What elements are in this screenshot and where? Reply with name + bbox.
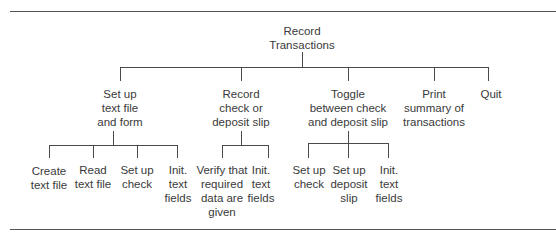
- node-label-line: Verify that: [196, 163, 247, 177]
- node-label-line: Transactions: [269, 38, 334, 52]
- node-label-line: Record: [212, 87, 270, 101]
- node-label-line: Print: [403, 87, 465, 101]
- connector-line: [93, 145, 94, 158]
- node-label-line: and deposit slip: [308, 115, 388, 129]
- node-label-line: and form: [97, 115, 142, 129]
- node-label-line: check: [120, 177, 153, 191]
- node-toggle-check-deposit: Toggle between check and deposit slip: [308, 87, 388, 129]
- node-label-line: given: [196, 205, 247, 219]
- node-label-line: Set up: [97, 87, 142, 101]
- connector-line: [268, 145, 269, 158]
- node-label-line: Record: [269, 24, 334, 38]
- node-label-line: Init.: [165, 163, 192, 177]
- node-set-up-deposit-slip: Set up deposit slip: [330, 163, 367, 205]
- connector-line: [308, 143, 309, 158]
- connector-line: [348, 143, 349, 158]
- connector-line: [49, 145, 178, 146]
- node-set-up-check: Set up check: [292, 163, 325, 191]
- node-label-line: Set up: [120, 163, 153, 177]
- node-label-line: data are: [196, 191, 247, 205]
- node-label-line: Toggle: [308, 87, 388, 101]
- node-set-up-check: Set up check: [120, 163, 153, 191]
- node-label-line: text file: [31, 178, 67, 192]
- node-init-text-fields: Init. text fields: [376, 163, 403, 205]
- node-init-text-fields: Init. text fields: [165, 163, 192, 205]
- node-label-line: text: [376, 177, 403, 191]
- node-label-line: Create: [31, 164, 67, 178]
- node-record-check-or-deposit-slip: Record check or deposit slip: [212, 87, 270, 129]
- node-label-line: text file: [97, 101, 142, 115]
- top-rule: [10, 11, 556, 12]
- node-label-line: Quit: [480, 87, 501, 101]
- node-label-line: fields: [248, 191, 275, 205]
- connector-line: [222, 145, 269, 146]
- node-label-line: deposit: [330, 177, 367, 191]
- node-label-line: text: [248, 177, 275, 191]
- connector-line: [137, 145, 138, 158]
- connector-line: [120, 67, 121, 81]
- connector-line: [388, 143, 389, 158]
- connector-line: [222, 145, 223, 158]
- node-read-text-file: Read text file: [75, 163, 111, 191]
- node-label-line: text: [165, 177, 192, 191]
- node-label-line: slip: [330, 191, 367, 205]
- node-create-text-file: Create text file: [31, 164, 67, 192]
- node-label-line: Init.: [376, 163, 403, 177]
- connector-line: [241, 67, 242, 81]
- node-set-up-text-file-and-form: Set up text file and form: [97, 87, 142, 129]
- node-label-line: Init.: [248, 163, 275, 177]
- node-verify-required-data: Verify that required data are given: [196, 163, 247, 219]
- connector-line: [177, 145, 178, 158]
- node-label-line: between check: [308, 101, 388, 115]
- node-label-line: text file: [75, 177, 111, 191]
- connector-line: [348, 67, 349, 81]
- connector-line: [49, 145, 50, 158]
- connector-line: [241, 131, 242, 146]
- node-label-line: check or: [212, 101, 270, 115]
- node-label-line: transactions: [403, 115, 465, 129]
- node-label-line: Set up: [330, 163, 367, 177]
- connector-line: [302, 52, 303, 67]
- connector-line: [434, 67, 435, 81]
- node-label-line: fields: [165, 191, 192, 205]
- node-quit: Quit: [480, 87, 501, 101]
- node-print-summary: Print summary of transactions: [403, 87, 465, 129]
- node-label-line: deposit slip: [212, 115, 270, 129]
- node-init-text-fields: Init. text fields: [248, 163, 275, 205]
- connector-line: [113, 131, 114, 146]
- node-record-transactions: Record Transactions: [269, 24, 334, 52]
- bottom-rule: [10, 229, 556, 230]
- node-label-line: Set up: [292, 163, 325, 177]
- node-label-line: fields: [376, 191, 403, 205]
- node-label-line: summary of: [403, 101, 465, 115]
- node-label-line: required: [196, 177, 247, 191]
- node-label-line: check: [292, 177, 325, 191]
- node-label-line: Read: [75, 163, 111, 177]
- connector-line: [488, 67, 489, 81]
